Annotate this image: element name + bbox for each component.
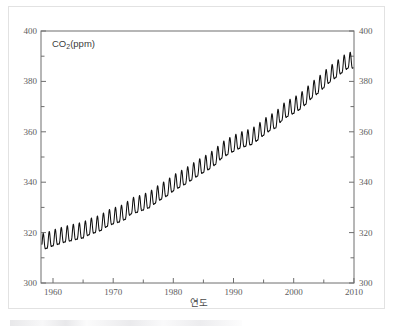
x-tick-1970: 1970 (104, 287, 123, 297)
y-left-tick-360: 360 (24, 127, 38, 137)
x-axis-labels: 1960 1970 1980 1990 2000 2010 (44, 287, 363, 297)
y-left-tick-320: 320 (24, 228, 38, 238)
series-label: CO2(ppm) (52, 38, 95, 50)
y-right-tick-340: 340 (359, 177, 373, 187)
x-axis-ticks (53, 278, 354, 283)
y-right-tick-400: 400 (359, 26, 373, 36)
y-left-tick-400: 400 (24, 26, 38, 36)
co2-line-chart: 400 380 360 340 320 300 400 380 360 340 … (0, 0, 395, 331)
x-tick-2010: 2010 (345, 287, 364, 297)
y-axis-left-ticks (41, 31, 46, 283)
caption-artifact (10, 320, 242, 326)
x-tick-1990: 1990 (225, 287, 244, 297)
co2-data-line (42, 52, 353, 249)
y-right-tick-320: 320 (359, 228, 373, 238)
figure-root: 400 380 360 340 320 300 400 380 360 340 … (0, 0, 395, 331)
series-label-suffix: (ppm) (70, 38, 95, 49)
x-tick-1960: 1960 (44, 287, 63, 297)
y-right-tick-380: 380 (359, 76, 373, 86)
x-axis-title: 연도 (190, 297, 208, 308)
plot-frame (41, 31, 354, 283)
y-left-tick-340: 340 (24, 177, 38, 187)
x-tick-1980: 1980 (164, 287, 183, 297)
x-tick-2000: 2000 (285, 287, 304, 297)
y-axis-left-labels: 400 380 360 340 320 300 (24, 26, 38, 288)
y-right-tick-360: 360 (359, 127, 373, 137)
series-label-prefix: CO (52, 38, 66, 49)
y-axis-right-ticks (349, 31, 354, 283)
y-axis-right-labels: 400 380 360 340 320 300 (359, 26, 373, 288)
svg-text:CO2(ppm): CO2(ppm) (52, 38, 95, 50)
y-left-tick-380: 380 (24, 76, 38, 86)
y-left-tick-300: 300 (24, 278, 38, 288)
